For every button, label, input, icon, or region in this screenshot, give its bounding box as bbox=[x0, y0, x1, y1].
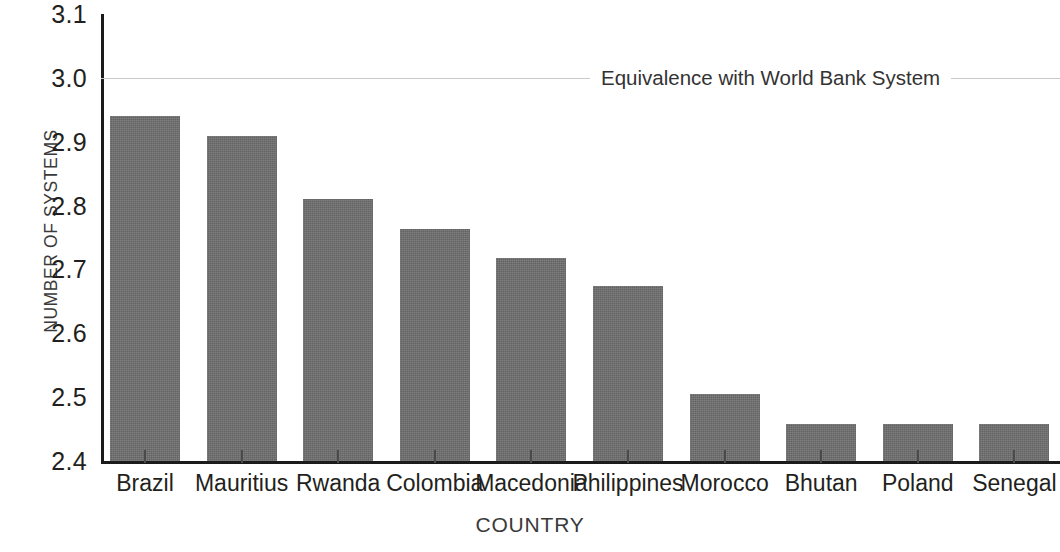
bar bbox=[400, 229, 470, 461]
y-axis-tick-label: 2.9 bbox=[7, 127, 87, 156]
bar bbox=[110, 116, 180, 461]
x-axis-tick-label: Bhutan bbox=[785, 470, 858, 497]
x-axis-tick-label: Senegal bbox=[972, 470, 1056, 497]
bar bbox=[496, 258, 566, 461]
x-axis-tick-label: Mauritius bbox=[195, 470, 288, 497]
x-axis-tick-label: Macedonia bbox=[475, 470, 588, 497]
x-axis-tick-label: Poland bbox=[882, 470, 954, 497]
x-axis-tick bbox=[530, 450, 532, 463]
y-axis-line bbox=[101, 14, 104, 462]
y-axis-tick-label: 3.0 bbox=[7, 63, 87, 92]
y-axis-tick-label: 3.1 bbox=[7, 0, 87, 29]
x-axis-tick bbox=[144, 450, 146, 463]
bar bbox=[593, 286, 663, 461]
x-axis-tick-label: Rwanda bbox=[296, 470, 380, 497]
y-axis-tick-label: 2.6 bbox=[7, 319, 87, 348]
x-axis-tick bbox=[337, 450, 339, 463]
x-axis-tick bbox=[917, 450, 919, 463]
bar bbox=[207, 136, 277, 461]
x-axis-tick-label: Brazil bbox=[116, 470, 174, 497]
x-axis-tick bbox=[627, 450, 629, 463]
x-axis-tick bbox=[241, 450, 243, 463]
x-axis-tick-label: Morocco bbox=[680, 470, 768, 497]
y-axis-tick-label: 2.4 bbox=[7, 447, 87, 476]
plot-area bbox=[101, 14, 1060, 461]
reference-gridline bbox=[101, 78, 1060, 79]
y-axis-tick-label: 2.5 bbox=[7, 383, 87, 412]
x-axis-tick-label: Colombia bbox=[386, 470, 483, 497]
y-axis-tick-labels: 2.42.52.62.72.82.93.03.1 bbox=[0, 0, 101, 552]
bar-chart-figure: NUMBER OF SYSTEMS 2.42.52.62.72.82.93.03… bbox=[0, 0, 1060, 552]
x-axis-tick bbox=[724, 450, 726, 463]
x-axis-tick bbox=[820, 450, 822, 463]
bar bbox=[303, 199, 373, 461]
y-axis-tick-label: 2.7 bbox=[7, 255, 87, 284]
x-axis-tick-label: Philippines bbox=[572, 470, 683, 497]
x-axis-tick bbox=[434, 450, 436, 463]
x-axis-tick bbox=[1013, 450, 1015, 463]
x-axis-title: COUNTRY bbox=[0, 513, 1060, 537]
y-axis-tick-label: 2.8 bbox=[7, 191, 87, 220]
